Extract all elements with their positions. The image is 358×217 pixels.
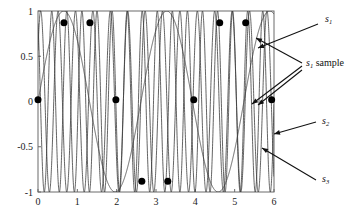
x-tick-label: 0 [36,196,41,207]
x-tick-label: 1 [75,196,80,207]
x-tick-label: 5 [232,196,237,207]
sample-marker [216,19,223,26]
sample-marker [86,19,93,26]
x-tick-label: 3 [154,196,159,207]
sample-marker [112,96,119,103]
x-tick-label: 6 [272,196,277,207]
annotation-subscript: 1 [329,18,332,25]
annotation-suffix: sample [313,57,344,68]
x-tick-label: 4 [193,196,198,207]
sample-marker [268,96,275,103]
sample-marker [138,178,145,185]
y-tick-label: 0 [28,96,33,107]
sample-marker [164,178,171,185]
x-tick-label: 2 [114,196,119,207]
figure-sinusoid-sampling: 0123456 10.50-0.5-1 s1s1 samples2s3 [0,0,358,217]
y-tick-label: 0.5 [21,51,34,62]
y-tick-label: -0.5 [17,141,33,152]
sample-marker [60,19,67,26]
sample-marker [35,96,42,103]
sample-marker [242,19,249,26]
sample-marker [190,96,197,103]
y-tick-label: -1 [25,187,33,198]
y-tick-label: 1 [28,6,33,17]
